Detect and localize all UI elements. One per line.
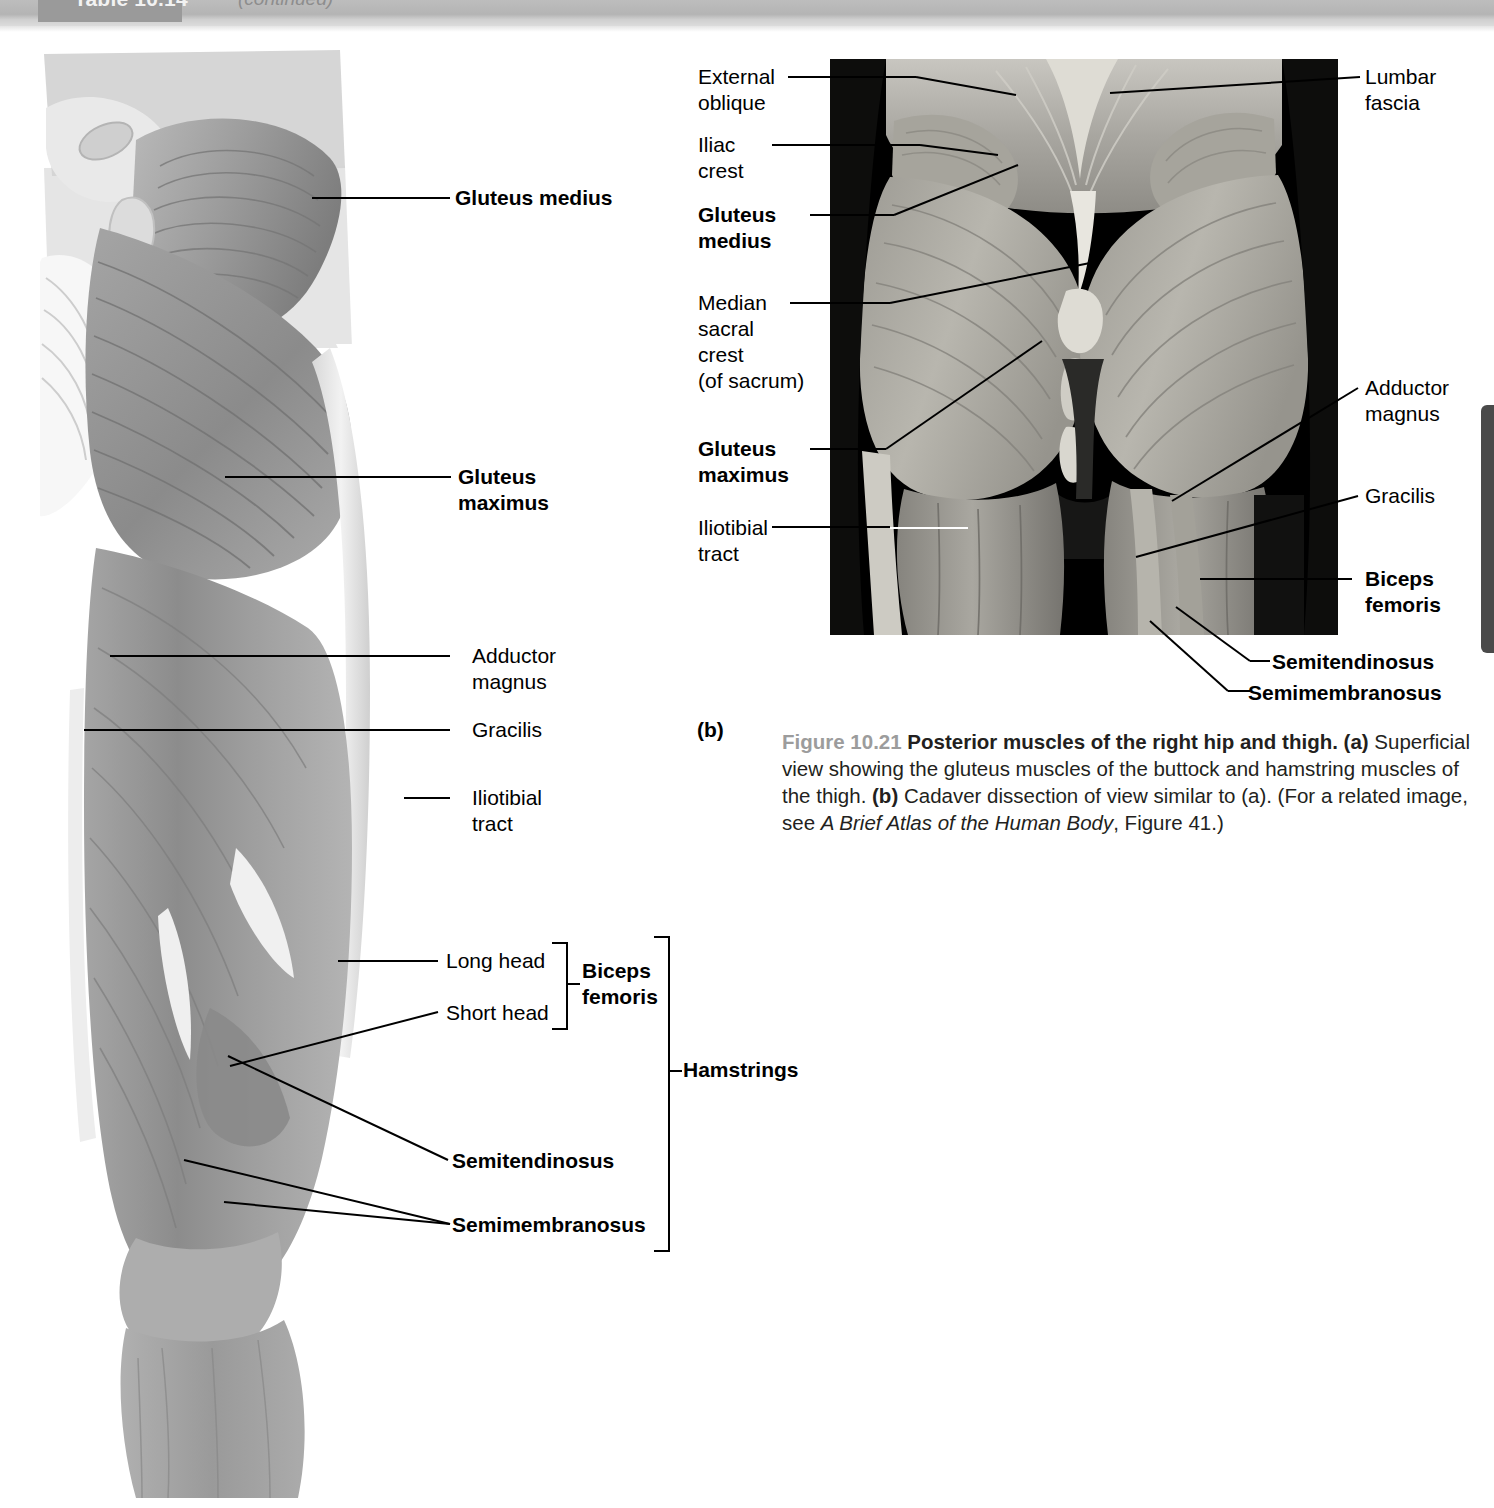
photo-label-iliotibial-tract-line2: tract bbox=[698, 541, 739, 566]
photo-label-biceps-femoris-line2: femoris bbox=[1365, 592, 1441, 617]
label-gluteus-maximus-line2: maximus bbox=[458, 490, 549, 515]
label-hamstrings: Hamstrings bbox=[683, 1057, 799, 1082]
bracket-biceps-femoris bbox=[552, 942, 568, 1030]
panel-b-marker: (b) bbox=[697, 718, 724, 742]
label-adductor-magnus-line1: Adductor bbox=[472, 643, 556, 668]
label-biceps-femoris-line1: Biceps bbox=[582, 958, 651, 983]
photo-leader-lines-left bbox=[770, 55, 1100, 655]
table-header-continued: (continued) bbox=[238, 0, 333, 10]
photo-label-median-sacral-line4: (of sacrum) bbox=[698, 368, 804, 393]
photo-label-biceps-femoris-line1: Biceps bbox=[1365, 566, 1434, 591]
leader-gluteus-maximus bbox=[225, 476, 451, 478]
figure-caption: Figure 10.21 Posterior muscles of the ri… bbox=[782, 728, 1482, 836]
leader-gluteus-medius bbox=[312, 197, 450, 199]
bracket-hamstrings-stem bbox=[668, 1070, 682, 1072]
atlas-title: A Brief Atlas of the Human Body bbox=[821, 811, 1113, 834]
label-gluteus-maximus-line1: Gluteus bbox=[458, 464, 536, 489]
photo-label-semimembranosus: Semimembranosus bbox=[1248, 680, 1442, 705]
photo-label-gracilis: Gracilis bbox=[1365, 483, 1435, 508]
leader-photo-iliotibial bbox=[890, 527, 968, 529]
label-long-head: Long head bbox=[446, 948, 545, 973]
table-header-bar: Table 10.14 (continued) bbox=[0, 0, 1494, 26]
label-iliotibial-tract-line1: Iliotibial bbox=[472, 785, 542, 810]
page-edge-tab bbox=[1481, 405, 1494, 653]
photo-label-external-oblique-line2: oblique bbox=[698, 90, 766, 115]
photo-leader-lines-right bbox=[1080, 55, 1380, 715]
photo-label-median-sacral-line2: sacral bbox=[698, 316, 754, 341]
illustration-artwork bbox=[40, 48, 385, 1498]
photo-label-semitendinosus: Semitendinosus bbox=[1272, 649, 1434, 674]
photo-label-median-sacral-line3: crest bbox=[698, 342, 744, 367]
header-shadow bbox=[0, 26, 1494, 32]
photo-label-lumbar-fascia-line1: Lumbar bbox=[1365, 64, 1436, 89]
label-short-head: Short head bbox=[446, 1000, 549, 1025]
photo-label-lumbar-fascia-line2: fascia bbox=[1365, 90, 1420, 115]
table-header-title: Table 10.14 bbox=[74, 0, 188, 11]
leader-iliotibial-tract bbox=[404, 797, 450, 799]
photo-label-median-sacral-line1: Median bbox=[698, 290, 767, 315]
photo-label-external-oblique-line1: External bbox=[698, 64, 775, 89]
atlas-tail: , Figure 41.) bbox=[1113, 811, 1224, 834]
label-semimembranosus: Semimembranosus bbox=[452, 1212, 646, 1237]
label-gracilis: Gracilis bbox=[472, 717, 542, 742]
photo-label-adductor-magnus-line2: magnus bbox=[1365, 401, 1440, 426]
posterior-hip-thigh-illustration bbox=[40, 48, 385, 1498]
photo-label-adductor-magnus-line1: Adductor bbox=[1365, 375, 1449, 400]
figure-title: Posterior muscles of the right hip and t… bbox=[907, 730, 1338, 753]
photo-label-gluteus-medius-line1: Gluteus bbox=[698, 202, 776, 227]
photo-label-gluteus-maximus-line2: maximus bbox=[698, 462, 789, 487]
leader-adductor-magnus bbox=[110, 655, 450, 657]
photo-label-iliac-crest-line1: Iliac bbox=[698, 132, 735, 157]
photo-label-iliotibial-tract-line1: Iliotibial bbox=[698, 515, 768, 540]
label-iliotibial-tract-line2: tract bbox=[472, 811, 513, 836]
photo-label-gluteus-medius-line2: medius bbox=[698, 228, 772, 253]
bracket-hamstrings bbox=[654, 936, 670, 1252]
figure-part-a-marker: (a) bbox=[1344, 730, 1369, 753]
figure-number: Figure 10.21 bbox=[782, 730, 902, 753]
figure-part-b-marker: (b) bbox=[872, 784, 898, 807]
photo-label-gluteus-maximus-line1: Gluteus bbox=[698, 436, 776, 461]
leader-semimembranosus bbox=[180, 1150, 452, 1240]
bracket-biceps-femoris-stem bbox=[566, 983, 580, 985]
photo-label-iliac-crest-line2: crest bbox=[698, 158, 744, 183]
leader-gracilis bbox=[84, 729, 450, 731]
label-biceps-femoris-line2: femoris bbox=[582, 984, 658, 1009]
label-gluteus-medius: Gluteus medius bbox=[455, 185, 613, 210]
label-semitendinosus: Semitendinosus bbox=[452, 1148, 614, 1173]
label-adductor-magnus-line2: magnus bbox=[472, 669, 547, 694]
